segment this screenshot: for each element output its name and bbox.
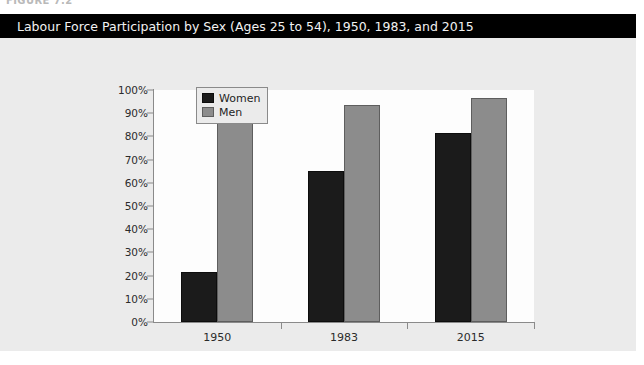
y-axis-tick-mark <box>147 159 153 160</box>
y-axis-tick-label: 80% <box>125 130 148 142</box>
y-axis-tick-labels: 0%10%20%30%40%50%60%70%80%90%100% <box>98 38 148 351</box>
y-axis-tick-mark <box>147 275 153 276</box>
y-axis-tick-mark <box>147 252 153 253</box>
x-axis-tick-label: 1983 <box>330 331 358 344</box>
y-axis-tick-mark <box>147 136 153 137</box>
y-axis-tick-label: 30% <box>125 246 148 258</box>
legend-label-men: Men <box>219 106 242 119</box>
figure-caption-clipped: FIGURE 7.2 <box>6 0 126 7</box>
y-axis-tick-label: 20% <box>125 270 148 282</box>
y-axis-tick-mark <box>147 113 153 114</box>
x-axis-tick-mark <box>281 323 282 329</box>
legend-swatch-men-icon <box>202 107 214 117</box>
bar-women-1983[interactable] <box>308 171 344 322</box>
bar-group <box>435 90 507 322</box>
y-axis-tick-mark <box>147 298 153 299</box>
y-axis-tick-mark <box>147 206 153 207</box>
y-axis-tick-label: 70% <box>125 154 148 166</box>
bars-layer <box>154 90 534 322</box>
legend-item-men: Men <box>202 105 260 119</box>
y-axis-tick-label: 40% <box>125 223 148 235</box>
page-title: Labour Force Participation by Sex (Ages … <box>0 19 474 34</box>
y-axis-tick-mark <box>147 229 153 230</box>
y-axis-tick-label: 100% <box>118 84 148 96</box>
bar-women-2015[interactable] <box>435 133 471 322</box>
y-axis-tick-label: 90% <box>125 107 148 119</box>
figure-title-bar: Labour Force Participation by Sex (Ages … <box>0 14 636 38</box>
legend-label-women: Women <box>219 92 260 105</box>
x-axis-tick-mark-end <box>534 323 535 329</box>
bar-women-1950[interactable] <box>181 272 217 322</box>
bar-men-2015[interactable] <box>471 98 507 322</box>
chart-legend: Women Men <box>196 87 268 124</box>
figure-root: FIGURE 7.2 Labour Force Participation by… <box>0 0 644 365</box>
x-axis-tick-mark <box>407 323 408 329</box>
x-axis-tick-label: 1950 <box>203 331 231 344</box>
y-axis-tick-mark <box>147 90 153 91</box>
chart-panel: 0%10%20%30%40%50%60%70%80%90%100% 195019… <box>0 38 636 351</box>
y-axis-tick-label: 0% <box>131 316 148 328</box>
y-axis-tick-label: 60% <box>125 177 148 189</box>
y-axis-tick-label: 10% <box>125 293 148 305</box>
bar-group <box>308 90 380 322</box>
bar-men-1983[interactable] <box>344 105 380 322</box>
y-axis-tick-label: 50% <box>125 200 148 212</box>
y-axis-tick-mark <box>147 182 153 183</box>
x-axis-tick-label: 2015 <box>457 331 485 344</box>
bar-men-1950[interactable] <box>217 98 253 322</box>
bar-group <box>181 90 253 322</box>
y-axis-tick-mark <box>147 322 153 323</box>
x-axis-line <box>153 322 535 323</box>
legend-item-women: Women <box>202 91 260 105</box>
legend-swatch-women-icon <box>202 93 214 103</box>
